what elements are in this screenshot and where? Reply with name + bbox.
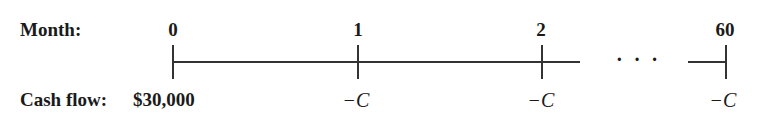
cash-flow-1: −C [343,90,370,110]
cash-flow-0: $30,000 [133,90,195,110]
timeline-axis-end-segment [688,61,726,63]
tick-2 [541,45,543,79]
cash-flow-row-label: Cash flow: [20,90,107,110]
timeline-axis [172,61,580,63]
month-2-label: 2 [536,20,546,40]
tick-0 [172,45,174,79]
month-0-label: 0 [168,20,178,40]
month-row-label: Month: [20,20,81,40]
ellipsis: · · · [616,48,661,71]
cash-flow-timeline: Month: Cash flow: 0 1 2 60 · · · $30,000… [0,0,764,114]
tick-1 [357,45,359,79]
month-60-label: 60 [716,20,735,40]
month-1-label: 1 [353,20,363,40]
tick-60 [725,45,727,79]
cash-flow-60: −C [710,90,737,110]
cash-flow-2: −C [528,90,555,110]
